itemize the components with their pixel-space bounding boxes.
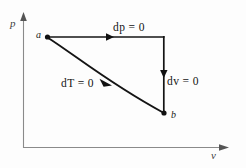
isochoric-process-label: dv = 0: [167, 76, 199, 88]
node-label-a: a: [36, 30, 41, 40]
v-axis-arrowhead: [219, 144, 229, 151]
isothermal-process-curve: [48, 38, 164, 113]
isobaric-process-label: dp = 0: [113, 22, 145, 34]
node-dot-b: [161, 110, 166, 115]
pv-diagram-figure: p v a b dp = 0 dv = 0 dT = 0: [0, 0, 246, 168]
isobaric-direction-arrowhead: [106, 33, 114, 41]
isothermal-process-label: dT = 0: [61, 78, 94, 90]
v-axis-label: v: [211, 150, 216, 161]
p-axis-arrowhead: [20, 12, 27, 21]
node-dot-a: [45, 34, 50, 39]
node-label-b: b: [171, 110, 176, 120]
p-axis-label: p: [10, 18, 16, 29]
